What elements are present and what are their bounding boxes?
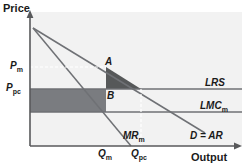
demand-label: D = AR <box>190 131 223 141</box>
quantity-monopoly-symbol: Q <box>98 148 106 159</box>
price-monopoly-symbol: P <box>10 60 17 71</box>
point-b-label: B <box>107 91 114 101</box>
point-a-label: A <box>105 57 112 67</box>
price-monopoly-subscript: m <box>17 66 23 73</box>
price-monopoly-label: Pm <box>10 61 23 73</box>
price-competitive-symbol: P <box>6 82 13 93</box>
mr-label: MRm <box>123 131 145 143</box>
price-competitive-subscript: pc <box>13 88 21 95</box>
x-axis-arrow <box>234 143 242 150</box>
price-competitive-label: Ppc <box>6 83 21 95</box>
quantity-competitive-label: Qpc <box>131 149 147 161</box>
deadweight-loss-triangle <box>106 67 141 89</box>
y-axis-title: Price <box>3 3 30 14</box>
mr-subscript: m <box>139 136 145 143</box>
quantity-competitive-symbol: Q <box>131 148 139 159</box>
mr-symbol: MR <box>123 130 139 141</box>
quantity-monopoly-label: Qm <box>98 149 112 161</box>
demand-curve <box>33 28 205 133</box>
x-axis-title: Output <box>191 152 227 163</box>
quantity-monopoly-subscript: m <box>106 154 112 161</box>
quantity-competitive-subscript: pc <box>139 154 147 161</box>
economics-diagram: Price Output Pm Ppc Qm Qpc A B LRS LMCm … <box>0 0 248 167</box>
lmc-subscript: m <box>222 106 228 113</box>
cost-saving-rectangle <box>30 89 106 112</box>
lmc-label: LMCm <box>200 101 228 113</box>
lrs-label: LRS <box>205 78 225 88</box>
lmc-symbol: LMC <box>200 100 222 111</box>
